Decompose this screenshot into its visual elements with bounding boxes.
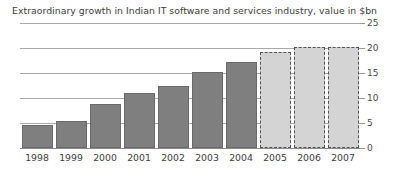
y-axis-label: 5 xyxy=(367,119,373,128)
y-axis: 0510152025 xyxy=(360,0,393,178)
bar-1998 xyxy=(22,125,53,148)
x-axis-label-2003: 2003 xyxy=(195,152,219,164)
bar-2007 xyxy=(328,47,359,148)
bar-2006 xyxy=(294,47,325,148)
bar-2003 xyxy=(192,72,223,148)
x-axis-label-1998: 1998 xyxy=(25,152,49,164)
y-axis-label: 15 xyxy=(367,69,378,78)
x-axis-label-2007: 2007 xyxy=(331,152,355,164)
x-axis: 1998199920002001200220032004200520062007 xyxy=(20,152,360,170)
y-axis-tick-25 xyxy=(360,23,365,24)
x-axis-label-2000: 2000 xyxy=(93,152,117,164)
y-axis-label: 25 xyxy=(367,19,378,28)
x-axis-label-2002: 2002 xyxy=(161,152,185,164)
bar-2002 xyxy=(158,86,189,149)
y-axis-tick-20 xyxy=(360,48,365,49)
bar-2000 xyxy=(90,104,121,148)
bar-chart-figure: Extraordinary growth in Indian IT softwa… xyxy=(0,0,393,178)
y-axis-tick-5 xyxy=(360,123,365,124)
bar-2004 xyxy=(226,62,257,148)
y-axis-label: 10 xyxy=(367,94,378,103)
bar-2001 xyxy=(124,93,155,148)
y-axis-tick-0 xyxy=(360,148,365,149)
bar-2005 xyxy=(260,52,291,148)
x-axis-label-2004: 2004 xyxy=(229,152,253,164)
x-axis-label-1999: 1999 xyxy=(59,152,83,164)
y-axis-label: 0 xyxy=(367,144,373,153)
y-axis-tick-15 xyxy=(360,73,365,74)
x-axis-label-2005: 2005 xyxy=(263,152,287,164)
y-axis-label: 20 xyxy=(367,44,378,53)
y-axis-tick-10 xyxy=(360,98,365,99)
x-axis-label-2006: 2006 xyxy=(297,152,321,164)
gridline-25 xyxy=(20,23,360,24)
plot-area xyxy=(20,14,360,150)
bar-1999 xyxy=(56,121,87,148)
x-axis-baseline xyxy=(20,148,360,149)
x-axis-label-2001: 2001 xyxy=(127,152,151,164)
